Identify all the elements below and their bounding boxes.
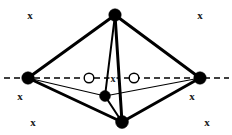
edge-top-bottom (115, 15, 122, 122)
inner-vertex (100, 91, 111, 102)
edge-top-left (28, 15, 115, 78)
label-x-mid-right: x (189, 91, 195, 102)
edge-top-inner (105, 15, 115, 96)
bottom-vertex (116, 116, 129, 129)
label-x-center: x (110, 73, 117, 84)
label-x-top-left: x (27, 10, 33, 21)
edge-top-right (115, 15, 200, 78)
left-vertex (22, 72, 34, 84)
right-vertex (194, 72, 206, 84)
molecular-geometry-figure: xxxxxxx (0, 0, 232, 135)
open-circle-left (84, 73, 94, 83)
top-vertex (109, 9, 121, 21)
label-x-bottom-right: x (204, 117, 210, 128)
label-x-top-right: x (197, 10, 203, 21)
label-x-bottom-left: x (30, 117, 36, 128)
open-circle-right (129, 73, 139, 83)
label-x-mid-left: x (17, 91, 23, 102)
edges-group (28, 15, 200, 122)
